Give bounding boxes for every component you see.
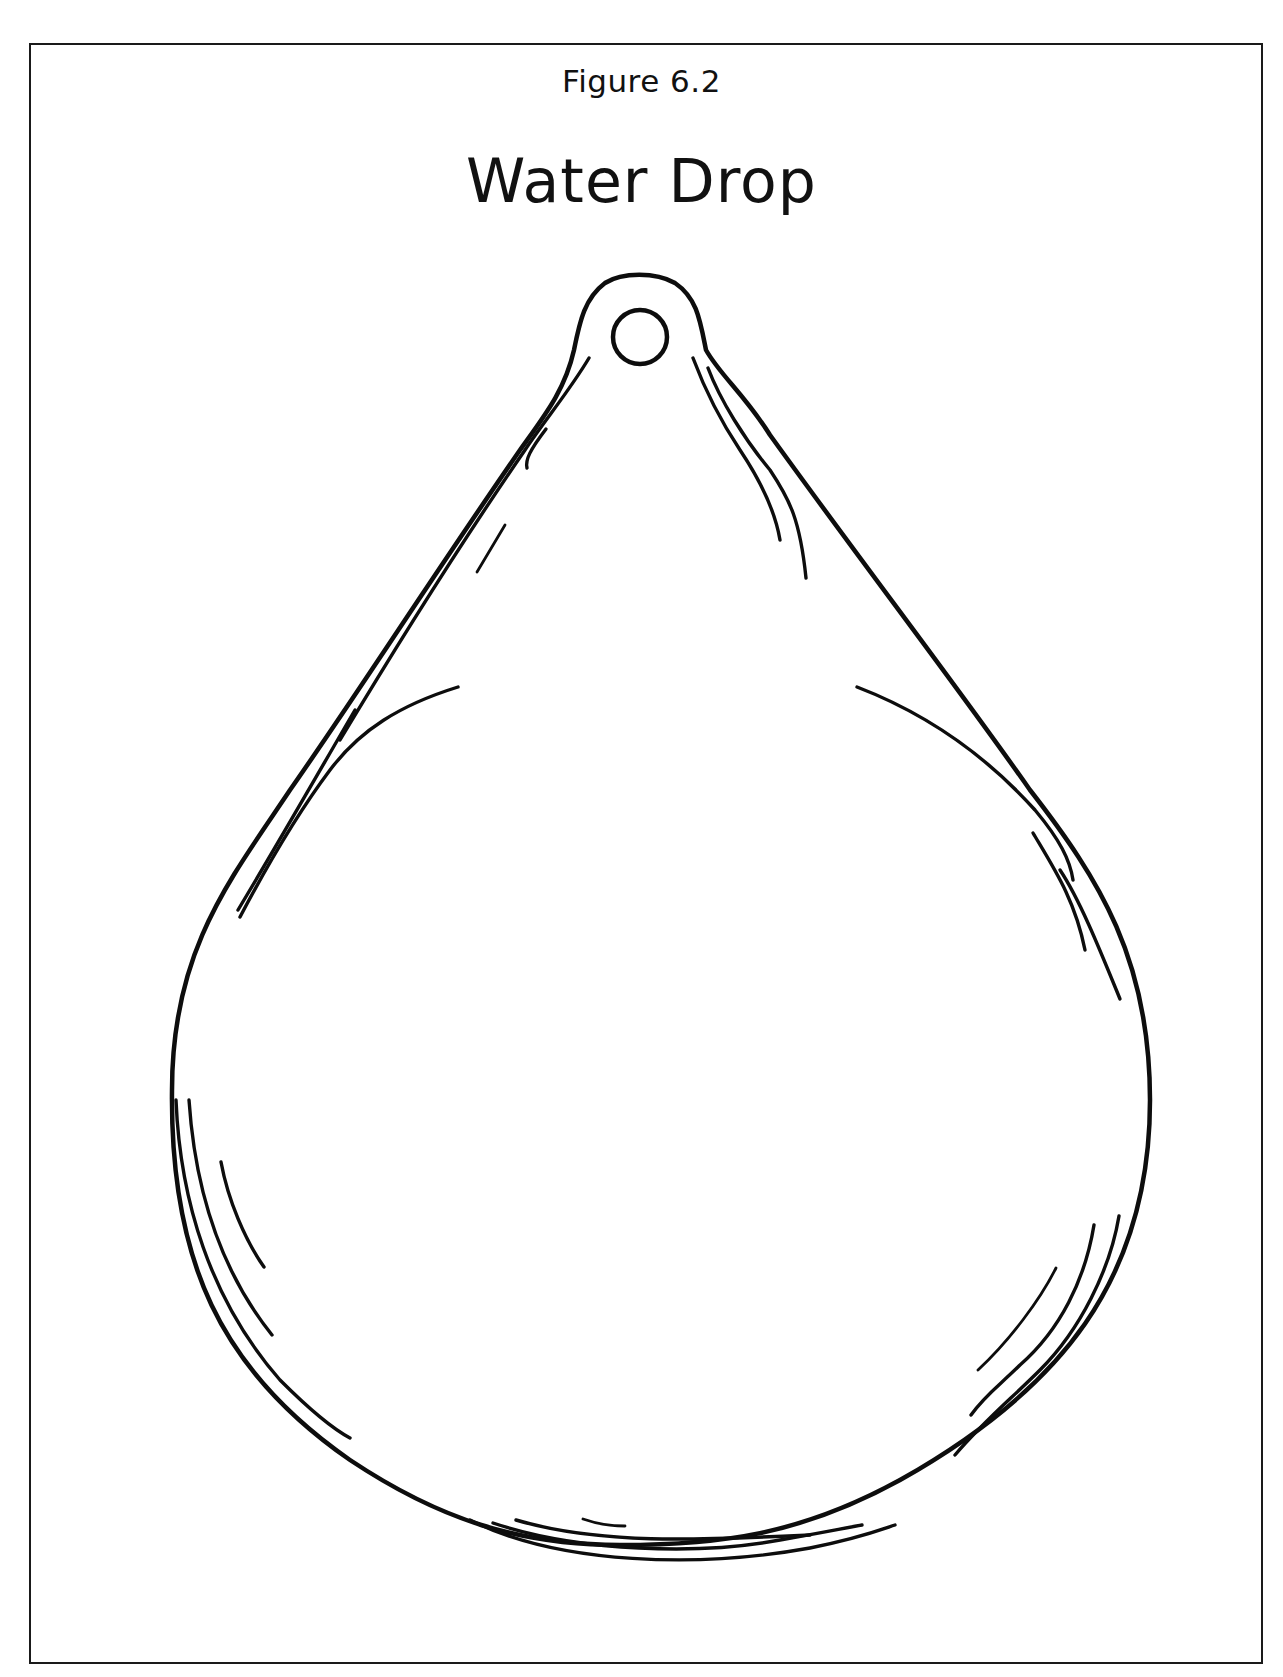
highlight-stroke [583,1519,625,1526]
highlight-stroke [340,358,589,740]
highlight-stroke [238,710,355,910]
water-drop-illustration [0,0,1283,1677]
loop-hole [613,310,667,364]
highlight-stroke [1060,870,1120,999]
highlight-stroke [176,1100,350,1438]
highlight-stroke [1033,833,1085,950]
drop-outline [172,275,1150,1545]
highlight-stroke [516,1520,810,1539]
highlight-stroke [978,1268,1056,1370]
highlight-stroke [955,1216,1119,1455]
highlight-stroke [221,1162,264,1267]
highlight-stroke [708,368,806,578]
highlight-stroke [189,1100,272,1335]
highlight-stroke [857,687,1073,880]
highlight-stroke [477,525,505,572]
highlight-stroke [693,358,780,540]
